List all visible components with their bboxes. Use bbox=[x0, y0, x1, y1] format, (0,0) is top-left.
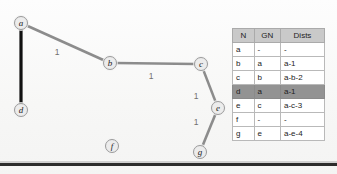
node-label-g: g bbox=[198, 148, 203, 157]
page-divider bbox=[0, 163, 337, 166]
table-cell-dists: - bbox=[280, 113, 324, 127]
table-row[interactable]: daa-1 bbox=[233, 85, 325, 99]
table-row[interactable]: cba-b-2 bbox=[233, 71, 325, 85]
node-label-a: a bbox=[19, 19, 24, 28]
node-label-b: b bbox=[108, 59, 113, 68]
table-row[interactable]: gea-e-4 bbox=[233, 127, 325, 141]
table-cell-n: c bbox=[233, 71, 255, 85]
table-cell-gn: c bbox=[254, 99, 280, 113]
table-row[interactable]: baa-1 bbox=[233, 57, 325, 71]
table-cell-dists: a-b-2 bbox=[280, 71, 324, 85]
table-header-dists: Dists bbox=[280, 29, 324, 43]
table-cell-n: e bbox=[233, 99, 255, 113]
nodes-layer bbox=[13, 15, 226, 160]
table-cell-n: b bbox=[233, 57, 255, 71]
table-cell-gn: b bbox=[254, 71, 280, 85]
distance-table-body: a--baa-1cba-b-2daa-1eca-c-3f--gea-e-4 bbox=[233, 43, 325, 141]
table-cell-gn: - bbox=[254, 43, 280, 57]
edge-weight-c-e: 1 bbox=[194, 92, 199, 101]
table-header-gn: GN bbox=[254, 29, 280, 43]
graph-edge-b-c bbox=[115, 63, 195, 64]
table-row[interactable]: a-- bbox=[233, 43, 325, 57]
edge-weight-b-c: 1 bbox=[149, 72, 154, 81]
table-header-row: N GN Dists bbox=[233, 29, 325, 43]
table-cell-gn: - bbox=[254, 113, 280, 127]
table-row[interactable]: f-- bbox=[233, 113, 325, 127]
graph-edge-a-b bbox=[26, 25, 105, 60]
table-header-n: N bbox=[233, 29, 255, 43]
node-label-f: f bbox=[111, 142, 114, 151]
graph-edge-e-g bbox=[202, 113, 216, 147]
node-label-e: e bbox=[216, 104, 220, 113]
table-cell-dists: - bbox=[280, 43, 324, 57]
table-cell-n: a bbox=[233, 43, 255, 57]
table-cell-n: d bbox=[233, 85, 255, 99]
graph-edge-c-e bbox=[203, 69, 216, 103]
table-cell-gn: a bbox=[254, 85, 280, 99]
node-label-c: c bbox=[199, 60, 203, 69]
edges-layer bbox=[21, 25, 216, 147]
table-cell-dists: a-e-4 bbox=[280, 127, 324, 141]
table-cell-n: g bbox=[233, 127, 255, 141]
table-cell-gn: e bbox=[254, 127, 280, 141]
table-cell-dists: a-1 bbox=[280, 57, 324, 71]
table-cell-dists: a-1 bbox=[280, 85, 324, 99]
table-row[interactable]: eca-c-3 bbox=[233, 99, 325, 113]
edge-weight-a-b: 1 bbox=[55, 48, 60, 57]
table-cell-n: f bbox=[233, 113, 255, 127]
distance-table: N GN Dists a--baa-1cba-b-2daa-1eca-c-3f-… bbox=[232, 28, 325, 141]
table-cell-gn: a bbox=[254, 57, 280, 71]
edge-weight-e-g: 1 bbox=[194, 118, 199, 127]
diagram-canvas: abcdefg 1111 N GN Dists a--baa-1cba-b-2d… bbox=[0, 0, 337, 174]
table-cell-dists: a-c-3 bbox=[280, 99, 324, 113]
node-label-d: d bbox=[19, 106, 24, 115]
